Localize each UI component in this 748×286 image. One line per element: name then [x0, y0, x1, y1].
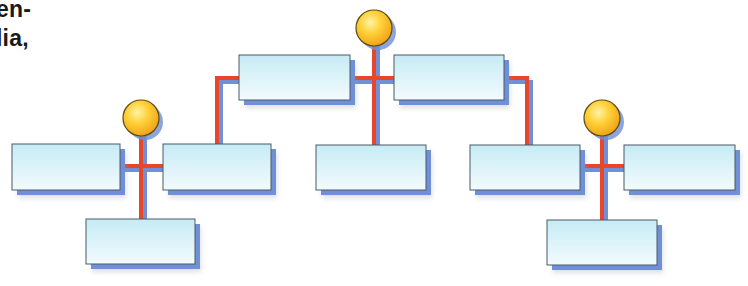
box-right-left — [470, 145, 586, 198]
box-top-left — [239, 55, 356, 108]
box-right-right — [624, 145, 741, 198]
box-left-bottom — [86, 219, 201, 272]
box-left-right — [163, 144, 277, 198]
box-middle — [316, 145, 432, 198]
node-circle-left — [123, 100, 163, 140]
node-circle-top — [356, 10, 396, 50]
box-top-right — [394, 55, 510, 108]
box-right-bottom — [547, 220, 663, 273]
node-circle-right — [584, 100, 624, 140]
box-left-left — [12, 144, 126, 198]
org-chart-diagram — [0, 0, 748, 286]
